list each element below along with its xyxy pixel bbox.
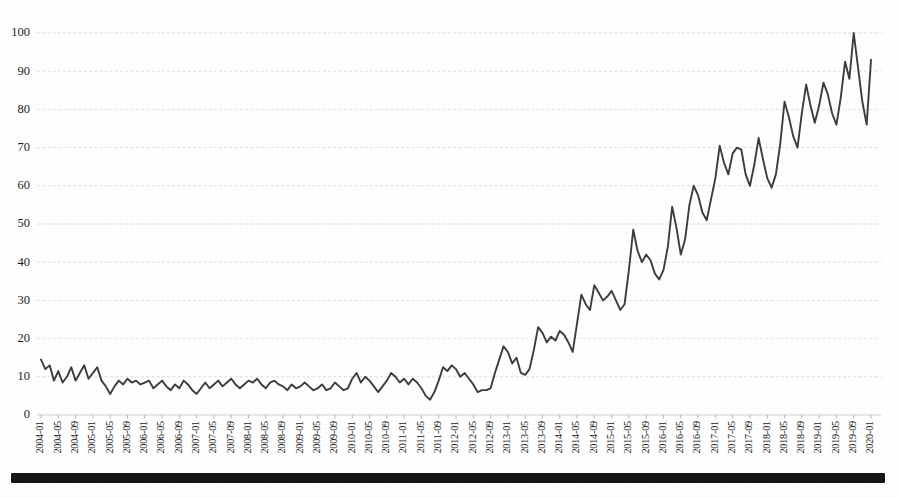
- x-tick-label: 2009-01: [294, 421, 305, 454]
- x-tick-label: 2010-05: [363, 421, 374, 454]
- x-tick-label: 2006-05: [155, 421, 166, 454]
- x-tick-label: 2005-05: [104, 421, 115, 454]
- x-tick-label: 2005-01: [86, 421, 97, 454]
- x-tick-label: 2004-09: [69, 421, 80, 454]
- x-tick-label: 2008-09: [276, 421, 287, 454]
- y-tick-label: 30: [18, 293, 31, 307]
- y-tick-label: 0: [24, 407, 30, 421]
- x-tick-label: 2014-05: [570, 421, 581, 454]
- x-tick-label: 2008-01: [242, 421, 253, 454]
- chart-canvas: 0102030405060708090100 2004-012004-05200…: [0, 0, 898, 497]
- y-tick-label: 10: [18, 369, 31, 383]
- y-tick-label: 60: [18, 178, 31, 192]
- x-tick-label: 2008-05: [259, 421, 270, 454]
- y-tick-label: 90: [18, 64, 31, 78]
- x-tick-label: 2018-05: [778, 421, 789, 454]
- x-tick-label: 2018-09: [795, 421, 806, 454]
- y-tick-label: 80: [18, 102, 31, 116]
- x-tick-label: 2011-09: [432, 421, 443, 453]
- x-tick-label: 2012-01: [449, 421, 460, 454]
- y-tick-label: 40: [18, 255, 31, 269]
- x-tick-label: 2010-09: [380, 421, 391, 454]
- gridlines: [37, 33, 881, 415]
- x-tick-label: 2007-05: [207, 421, 218, 454]
- scanned-page: 0102030405060708090100 2004-012004-05200…: [0, 0, 898, 497]
- x-tick-label: 2006-01: [138, 421, 149, 454]
- x-tick-label: 2010-01: [346, 421, 357, 454]
- x-tick-label: 2016-05: [674, 421, 685, 454]
- x-tick-label: 2019-05: [830, 421, 841, 454]
- x-tick-label: 2007-09: [225, 421, 236, 454]
- x-tick-label: 2016-01: [657, 421, 668, 454]
- footer-rule: [11, 473, 885, 483]
- x-tick-label: 2017-01: [709, 421, 720, 454]
- x-tick-label: 2005-09: [121, 421, 132, 454]
- x-tick-label: 2012-05: [467, 421, 478, 454]
- x-tick-label: 2018-01: [761, 421, 772, 454]
- y-axis-tick-labels: 0102030405060708090100: [11, 25, 30, 421]
- y-tick-label: 50: [18, 216, 31, 230]
- y-tick-label: 20: [18, 331, 31, 345]
- x-tick-label: 2019-01: [812, 421, 823, 454]
- data-series-line: [41, 33, 871, 400]
- x-tick-label: 2011-01: [397, 421, 408, 453]
- x-tick-label: 2020-01: [864, 421, 875, 454]
- x-axis-tick-labels: 2004-012004-052004-092005-012005-052005-…: [34, 421, 875, 454]
- x-tick-label: 2017-09: [743, 421, 754, 454]
- x-tick-label: 2013-01: [501, 421, 512, 454]
- x-tick-label: 2015-05: [622, 421, 633, 454]
- x-tick-label: 2015-09: [640, 421, 651, 454]
- x-tick-label: 2007-01: [190, 421, 201, 454]
- x-axis-tick-marks: [41, 415, 871, 419]
- x-tick-label: 2016-09: [691, 421, 702, 454]
- x-tick-label: 2006-09: [173, 421, 184, 454]
- y-tick-label: 100: [11, 25, 30, 39]
- x-tick-label: 2013-09: [536, 421, 547, 454]
- x-tick-label: 2009-09: [328, 421, 339, 454]
- x-tick-label: 2011-05: [415, 421, 426, 453]
- x-tick-label: 2017-05: [726, 421, 737, 454]
- line-chart-figure: 0102030405060708090100 2004-012004-05200…: [0, 0, 898, 497]
- x-tick-label: 2012-09: [484, 421, 495, 454]
- x-tick-label: 2014-09: [588, 421, 599, 454]
- x-tick-label: 2004-05: [52, 421, 63, 454]
- x-tick-label: 2013-05: [519, 421, 530, 454]
- x-tick-label: 2004-01: [34, 421, 45, 454]
- x-tick-label: 2009-05: [311, 421, 322, 454]
- x-tick-label: 2014-01: [553, 421, 564, 454]
- x-tick-label: 2015-01: [605, 421, 616, 454]
- x-tick-label: 2019-09: [847, 421, 858, 454]
- y-tick-label: 70: [18, 140, 31, 154]
